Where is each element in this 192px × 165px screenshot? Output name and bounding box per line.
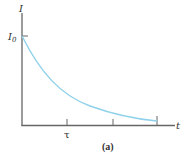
chart: I I0 t τ (a) [0, 0, 192, 165]
y-axis-label: I [18, 3, 24, 14]
figure-caption: (a) [102, 141, 114, 153]
y0-label: I0 [7, 31, 17, 44]
decay-curve [22, 36, 157, 121]
tau-label: τ [64, 129, 70, 140]
x-axis-label: t [176, 120, 181, 131]
